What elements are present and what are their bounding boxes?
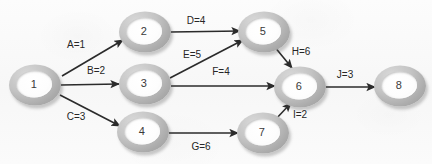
node-ring-1: 1 xyxy=(9,65,61,106)
edge-3-to-5 xyxy=(170,40,243,78)
edge-lines-group xyxy=(60,31,375,133)
edge-label-J: J=3 xyxy=(337,70,353,80)
node-label-1: 1 xyxy=(31,79,37,90)
edge-label-H: H=6 xyxy=(292,47,311,57)
edge-label-I: I=2 xyxy=(293,110,307,120)
node-label-3: 3 xyxy=(141,78,147,89)
node-face-8: 8 xyxy=(381,72,417,99)
node-ring-6: 6 xyxy=(274,67,326,108)
edge-1-to-3 xyxy=(61,84,119,85)
node-face-3: 3 xyxy=(126,70,162,97)
node-face-6: 6 xyxy=(281,73,317,100)
edge-layer xyxy=(0,0,432,164)
node-ring-3: 3 xyxy=(119,64,171,105)
node-label-2: 2 xyxy=(141,26,147,37)
node-5[interactable]: 5 xyxy=(238,12,290,53)
node-label-7: 7 xyxy=(259,127,265,138)
node-7[interactable]: 7 xyxy=(237,113,289,154)
node-label-4: 4 xyxy=(139,126,145,137)
node-face-2: 2 xyxy=(126,18,162,45)
node-face-1: 1 xyxy=(16,71,52,98)
edge-label-F: F=4 xyxy=(212,67,230,77)
node-face-7: 7 xyxy=(244,119,280,146)
node-ring-4: 4 xyxy=(117,112,169,153)
node-1[interactable]: 1 xyxy=(9,65,61,106)
node-ring-2: 2 xyxy=(119,12,171,53)
node-2[interactable]: 2 xyxy=(119,12,171,53)
node-ring-8: 8 xyxy=(374,66,426,107)
node-label-6: 6 xyxy=(296,81,302,92)
edge-label-E: E=5 xyxy=(183,50,201,60)
node-face-4: 4 xyxy=(124,118,160,145)
edge-label-B: B=2 xyxy=(87,66,105,76)
edge-label-D: D=4 xyxy=(187,16,206,26)
diagram-canvas: 12345678 A=1B=2C=3D=4E=5F=4G=6H=6I=2J=3 xyxy=(0,0,432,164)
edge-label-A: A=1 xyxy=(67,40,85,50)
node-ring-5: 5 xyxy=(238,12,290,53)
edge-2-to-5 xyxy=(171,31,240,32)
edge-label-C: C=3 xyxy=(67,112,86,122)
node-ring-7: 7 xyxy=(237,113,289,154)
node-4[interactable]: 4 xyxy=(117,112,169,153)
node-6[interactable]: 6 xyxy=(274,67,326,108)
node-face-5: 5 xyxy=(245,18,281,45)
node-3[interactable]: 3 xyxy=(119,64,171,105)
node-label-5: 5 xyxy=(260,26,266,37)
node-label-8: 8 xyxy=(396,80,402,91)
edge-label-G: G=6 xyxy=(191,142,210,152)
node-8[interactable]: 8 xyxy=(374,66,426,107)
